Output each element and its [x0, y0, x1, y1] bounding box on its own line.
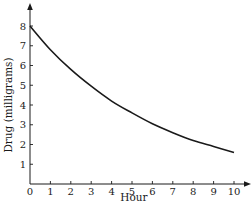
y-tick-label: 6 — [20, 60, 26, 71]
x-tick-label: 3 — [88, 186, 94, 197]
y-tick-label: 5 — [20, 80, 26, 91]
x-tick-label: 4 — [108, 186, 114, 197]
chart: 012345678910 12345678 Hour Drug (milligr… — [0, 0, 251, 205]
x-tick-label: 10 — [228, 186, 241, 197]
y-tick-label: 8 — [20, 21, 26, 32]
y-tick-label: 4 — [20, 100, 26, 111]
x-tick-label: 9 — [210, 186, 216, 197]
x-tick-label: 0 — [27, 186, 33, 197]
y-axis-title: Drug (milligrams) — [2, 57, 14, 152]
y-tick-label: 2 — [20, 139, 26, 150]
x-tick-label: 6 — [149, 186, 155, 197]
x-axis-title: Hour — [120, 191, 148, 203]
series-line-drug-amount — [30, 26, 234, 152]
y-ticks: 12345678 — [20, 21, 33, 170]
x-axis-arrow-icon — [244, 181, 251, 187]
axes — [27, 3, 251, 187]
y-tick-label: 3 — [20, 119, 26, 130]
y-axis-arrow-icon — [27, 3, 33, 10]
x-tick-label: 1 — [47, 186, 53, 197]
y-tick-label: 7 — [20, 40, 26, 51]
x-tick-label: 7 — [170, 186, 176, 197]
x-tick-label: 8 — [190, 186, 196, 197]
x-tick-label: 2 — [68, 186, 74, 197]
y-tick-label: 1 — [20, 159, 26, 170]
